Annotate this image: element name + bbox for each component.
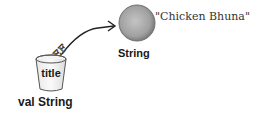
object-value-label: "Chicken Bhuna" — [155, 10, 250, 23]
reference-arrow-icon — [62, 21, 115, 54]
variable-name-label: title — [38, 67, 64, 79]
string-object-icon — [119, 5, 155, 41]
object-type-label: String — [118, 47, 150, 59]
variable-declaration-label: val String — [18, 95, 73, 109]
